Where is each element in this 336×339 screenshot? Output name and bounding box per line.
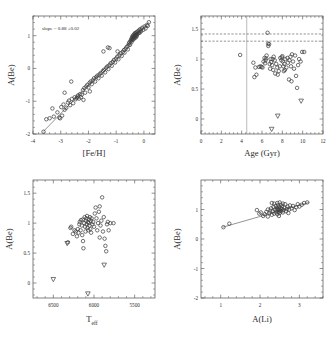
data-point-circle <box>290 80 294 84</box>
yaxis-title-bottom-left: A(Be) <box>4 228 14 250</box>
data-point-circle <box>289 65 293 69</box>
data-point-circle <box>83 91 87 95</box>
xtick-label: 6500 <box>48 302 59 308</box>
panel-bottom-right: 12310-1-2 A(Li) A(Be) <box>168 170 336 339</box>
upper-limit-triangle <box>51 277 56 281</box>
xtick-label: 2 <box>220 138 223 144</box>
xaxis-title-top-right: Age (Gyr) <box>244 148 280 158</box>
axis-tick-labels-bottom-right: 12310-1-2 <box>194 207 301 309</box>
axis-tick-labels-top-right: 0246810121.510.50 <box>192 26 326 144</box>
data-point-circle <box>255 208 259 212</box>
data-point-circle <box>107 229 111 233</box>
ytick-label: 1.5 <box>24 190 31 196</box>
fit-line-bottom-right <box>223 202 310 227</box>
data-point-circle <box>271 68 275 72</box>
data-point-circle <box>274 62 278 66</box>
xtick-label: 2 <box>259 302 262 308</box>
yaxis-title-bottom-right: A(Be) <box>172 228 182 250</box>
data-point-circle <box>95 217 99 221</box>
upper-limit-markers-bottom-left <box>51 242 106 297</box>
plot-area-bottom-right: 12310-1-2 <box>194 180 323 308</box>
data-point-circle <box>146 24 150 28</box>
data-point-circle <box>254 66 258 70</box>
upper-limit-triangle <box>86 292 91 296</box>
yaxis-title-top-right: A(Be) <box>172 64 182 86</box>
upper-limit-triangle <box>275 114 280 118</box>
data-point-circle <box>45 118 49 122</box>
ytick-label: -2 <box>194 295 199 301</box>
xtick-label: 0 <box>143 138 146 144</box>
ytick-label: -1 <box>194 266 199 272</box>
xtick-label: 6 <box>261 138 264 144</box>
upper-limit-triangle <box>269 127 274 131</box>
data-point-circle <box>100 196 104 200</box>
data-point-circle <box>71 101 75 105</box>
data-point-circle <box>116 50 120 54</box>
data-point-circle <box>102 50 106 54</box>
ytick-label: -2 <box>26 131 31 137</box>
ytick-label: 1 <box>27 220 30 226</box>
xtick-label: 4 <box>240 138 243 144</box>
data-point-circle <box>277 69 281 73</box>
xaxis-title-bottom-left: Teff <box>86 314 97 326</box>
data-point-circle <box>80 233 84 237</box>
data-point-circle <box>294 74 298 78</box>
axis-ticks-bottom-right <box>201 180 323 298</box>
data-point-circle <box>253 75 257 79</box>
axis-ticks-bottom-left <box>33 180 155 298</box>
data-point-circle <box>75 235 79 239</box>
xaxis-title-subscript: eff <box>92 320 98 326</box>
data-point-circle <box>70 80 74 84</box>
data-point-circle <box>102 215 106 219</box>
regression-fit-line <box>223 202 310 227</box>
data-point-circle <box>51 107 55 111</box>
data-point-circle <box>104 250 108 254</box>
data-point-circle <box>238 53 242 57</box>
slope-annotation: slope = 0.88 ±0.02 <box>42 26 80 31</box>
xtick-label: 12 <box>320 138 326 144</box>
ytick-label: 0.5 <box>24 250 31 256</box>
data-point-circle <box>99 224 103 228</box>
data-point-circle <box>292 67 296 71</box>
upper-limit-triangle <box>102 263 107 267</box>
data-point-circle <box>82 247 86 251</box>
data-point-circle <box>296 63 300 67</box>
data-point-circle <box>103 237 107 241</box>
xaxis-title-top-left: [Fe/H] <box>83 148 106 158</box>
data-point-circle <box>48 117 52 121</box>
xtick-label: 8 <box>281 138 284 144</box>
data-point-circle <box>266 215 270 219</box>
upper-limit-markers-top-right <box>269 99 303 131</box>
data-point-circle <box>293 54 297 58</box>
panel-top-right: 0246810121.510.50 Age (Gyr) A(Be) <box>168 0 336 170</box>
data-point-circle <box>42 130 46 134</box>
data-point-circle <box>96 229 100 233</box>
xtick-label: -4 <box>31 138 36 144</box>
data-point-circle <box>93 212 97 216</box>
ytick-label: 0 <box>195 236 198 242</box>
data-point-circle <box>60 114 64 118</box>
panel-bottom-left: 6500600055001.510.50 Teff A(Be) <box>0 170 168 339</box>
data-points-bottom-left <box>66 196 115 253</box>
data-point-circle <box>252 61 256 65</box>
data-point-circle <box>295 86 299 90</box>
data-point-circle <box>270 201 274 205</box>
xtick-label: 10 <box>300 138 306 144</box>
data-point-circle <box>228 222 232 226</box>
yaxis-title-top-left: A(Be) <box>6 64 16 86</box>
data-point-circle <box>89 231 93 235</box>
plot-area-top-right: 0246810121.510.50 <box>192 16 326 144</box>
ytick-label: 1 <box>195 207 198 213</box>
plot-area-top-left: -4-3-2-1010-1-2 <box>26 16 155 144</box>
ytick-label: 0 <box>27 280 30 286</box>
data-point-circle <box>63 91 67 95</box>
xtick-label: -1 <box>114 138 119 144</box>
data-point-circle <box>56 111 60 115</box>
data-point-circle <box>81 239 85 243</box>
figure-canvas: -4-3-2-1010-1-2 slope = 0.88 ±0.02 [Fe/H… <box>0 0 336 339</box>
xtick-label: -2 <box>86 138 91 144</box>
reference-lines-top-right <box>201 16 323 134</box>
data-point-circle <box>62 103 66 107</box>
data-point-circle <box>94 206 98 210</box>
xaxis-title-bottom-right: A(Li) <box>252 314 272 324</box>
